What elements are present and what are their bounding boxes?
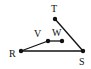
point-t [53, 17, 57, 21]
label-s: S [79, 56, 85, 67]
point-r [19, 49, 23, 53]
segment-rv [21, 41, 48, 51]
point-s [81, 49, 85, 53]
label-w: W [52, 27, 62, 38]
label-v: V [34, 28, 42, 39]
point-w [60, 39, 64, 43]
label-t: T [51, 3, 57, 14]
point-v [46, 39, 50, 43]
geometry-diagram: T V W R S [0, 0, 91, 69]
label-r: R [9, 48, 16, 59]
